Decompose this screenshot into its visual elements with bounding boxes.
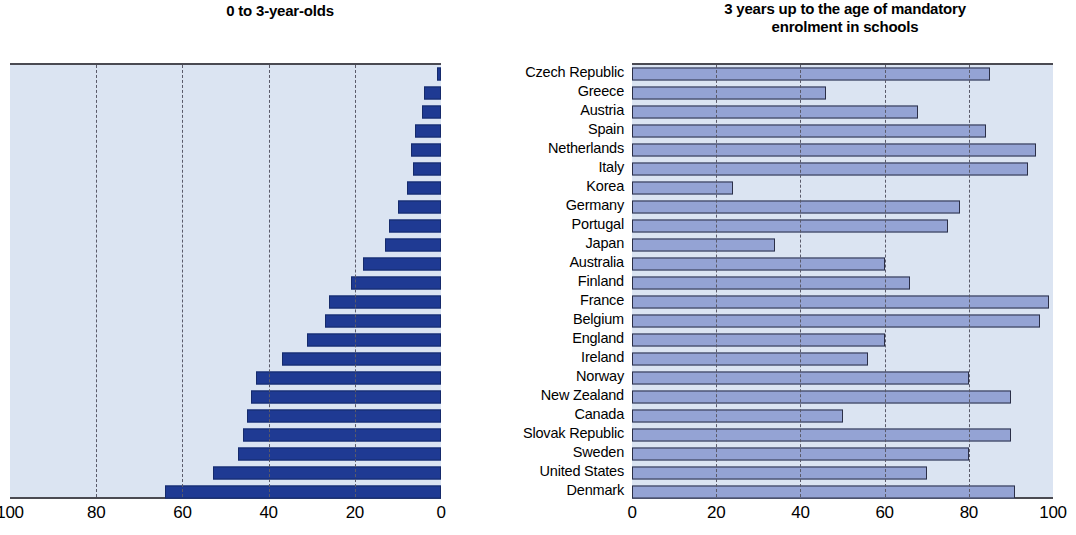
bar-row xyxy=(10,311,441,330)
category-label: Austria xyxy=(580,103,624,118)
bar-row xyxy=(632,368,1053,387)
bar-row xyxy=(632,141,1053,160)
gridline xyxy=(355,65,356,497)
bar xyxy=(632,87,826,100)
category-label: Japan xyxy=(585,236,624,251)
bar-row xyxy=(10,368,441,387)
bar-row xyxy=(10,463,441,482)
bar xyxy=(632,333,885,346)
category-label: Norway xyxy=(576,369,624,384)
bar-row xyxy=(632,425,1053,444)
bar-row xyxy=(10,122,441,141)
axis-tick-label: 40 xyxy=(259,503,277,523)
right-panel-title-line2: enrolment in schools xyxy=(772,18,919,35)
gridline xyxy=(269,65,270,497)
left-panel-title: 0 to 3-year-olds xyxy=(120,2,440,20)
bar-row xyxy=(632,122,1053,141)
axis-tick-label: 80 xyxy=(87,503,105,523)
bar-row xyxy=(10,425,441,444)
category-label: Finland xyxy=(578,274,624,289)
bar xyxy=(632,68,990,81)
bar xyxy=(325,314,441,327)
bar xyxy=(213,466,441,479)
category-label: United States xyxy=(540,464,624,479)
bar-row xyxy=(10,482,441,501)
category-label: New Zealand xyxy=(541,388,624,403)
bar xyxy=(413,163,441,176)
category-label: Slovak Republic xyxy=(523,426,624,441)
bar-row xyxy=(10,103,441,122)
category-label: England xyxy=(572,331,624,346)
gridline xyxy=(800,65,801,497)
category-label: Belgium xyxy=(573,312,624,327)
bar-row xyxy=(10,84,441,103)
bar xyxy=(632,239,775,252)
axis-tick-label: 60 xyxy=(173,503,191,523)
right-panel-title-line1: 3 years up to the age of mandatory xyxy=(724,0,966,17)
bar xyxy=(351,276,442,289)
bar-row xyxy=(10,65,441,84)
axis-tick-label: 80 xyxy=(960,503,978,523)
bar-row xyxy=(10,236,441,255)
bar xyxy=(415,125,441,138)
category-label: Italy xyxy=(598,160,624,175)
category-labels: Czech RepublicGreeceAustriaSpainNetherla… xyxy=(445,63,628,499)
category-label: Spain xyxy=(588,122,624,137)
right-x-axis: 020406080100 xyxy=(600,501,1070,527)
bar xyxy=(632,258,885,271)
bar xyxy=(329,295,441,308)
bar-row xyxy=(632,292,1053,311)
axis-tick-label: 0 xyxy=(627,503,636,523)
axis-tick-label: 100 xyxy=(1039,503,1066,523)
bar-row xyxy=(10,217,441,236)
bar xyxy=(632,314,1040,327)
bar xyxy=(407,182,441,195)
bar xyxy=(632,428,1011,441)
bar-row xyxy=(632,444,1053,463)
category-label: Portugal xyxy=(572,217,624,232)
bar xyxy=(632,106,918,119)
gridline xyxy=(969,65,970,497)
category-label: Czech Republic xyxy=(525,65,624,80)
gridline xyxy=(96,65,97,497)
bar-row xyxy=(10,387,441,406)
bar-row xyxy=(10,292,441,311)
left-bar-rows xyxy=(10,65,441,497)
bar xyxy=(165,485,441,498)
bar xyxy=(632,201,960,214)
gridline xyxy=(885,65,886,497)
bar xyxy=(422,106,441,119)
bar xyxy=(632,352,868,365)
bar-row xyxy=(10,349,441,368)
bar xyxy=(437,68,441,81)
gridline xyxy=(716,65,717,497)
axis-tick-label: 20 xyxy=(707,503,725,523)
bar xyxy=(632,182,733,195)
bar xyxy=(632,295,1049,308)
category-label: Netherlands xyxy=(548,141,624,156)
bar xyxy=(256,371,441,384)
bar-row xyxy=(632,179,1053,198)
axis-tick-label: 60 xyxy=(875,503,893,523)
right-panel-title: 3 years up to the age of mandatory enrol… xyxy=(645,0,1045,36)
bar-row xyxy=(10,141,441,160)
bar xyxy=(632,276,910,289)
bar xyxy=(424,87,441,100)
bar xyxy=(307,333,441,346)
title-separator xyxy=(470,0,630,18)
category-label: Australia xyxy=(569,255,624,270)
bar-row xyxy=(632,406,1053,425)
bar xyxy=(632,125,986,138)
bar-row xyxy=(632,311,1053,330)
bar-row xyxy=(632,84,1053,103)
bar xyxy=(632,466,927,479)
bar-row xyxy=(632,463,1053,482)
bar xyxy=(389,220,441,233)
category-label: Greece xyxy=(578,84,624,99)
bar-row xyxy=(10,198,441,217)
bar xyxy=(247,409,441,422)
bar xyxy=(632,409,843,422)
axis-tick-label: 100 xyxy=(0,503,24,523)
category-label: Canada xyxy=(574,407,624,422)
right-bar-rows xyxy=(632,65,1053,497)
